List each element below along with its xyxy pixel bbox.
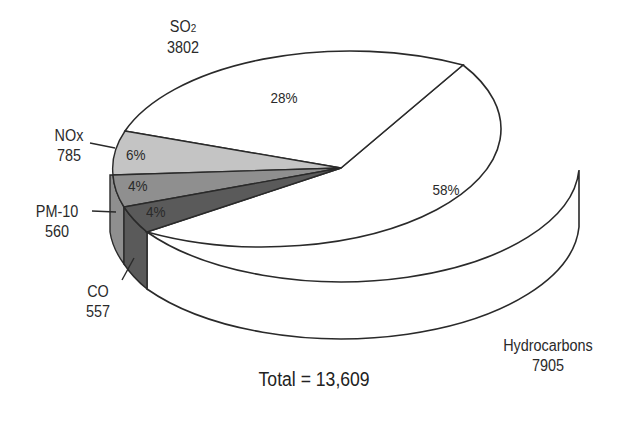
- total-caption: Total = 13,609: [0, 368, 629, 391]
- nox-label: NOx 785: [47, 126, 92, 166]
- so2-label: SO2 3802: [156, 17, 210, 58]
- pm10-label: PM-10 560: [26, 202, 89, 242]
- nox-percent: 6%: [126, 146, 146, 163]
- hydrocarbons-percent: 58%: [433, 181, 460, 198]
- so2-percent: 28%: [271, 89, 298, 106]
- pm10-percent: 4%: [128, 177, 148, 194]
- nox-leader-line: [90, 143, 115, 148]
- pm10-leader-line: [92, 211, 116, 212]
- co-percent: 4%: [146, 203, 166, 220]
- co-label: CO 557: [80, 282, 116, 322]
